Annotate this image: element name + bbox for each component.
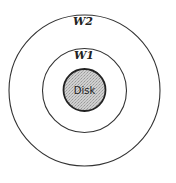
disk-label: Disk — [74, 85, 96, 96]
w2-label: W2 — [73, 15, 93, 28]
w1-label: W1 — [74, 49, 94, 62]
nested-regions-diagram: W2 W1 Disk — [0, 0, 176, 183]
